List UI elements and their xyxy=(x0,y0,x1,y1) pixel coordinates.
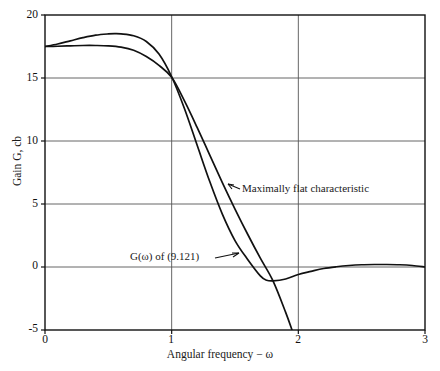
y-axis-title: Gain G, cb xyxy=(11,111,23,211)
x-axis-title: Angular frequency − ω xyxy=(0,348,440,360)
ytick-label-minus-5: -5 xyxy=(2,323,38,335)
xtick-label-3: 3 xyxy=(414,334,436,346)
plot-frame xyxy=(45,15,425,330)
axis-frame xyxy=(45,15,425,330)
series-line-0 xyxy=(45,34,425,281)
figure-container: 20 15 10 5 0 -5 0 1 2 3 Angular frequenc… xyxy=(0,0,440,371)
annotation-maximally-flat: Maximally flat characteristic xyxy=(242,183,369,194)
chart-plot-area xyxy=(0,0,440,371)
xtick-label-1: 1 xyxy=(160,334,182,346)
ytick-label-0: 0 xyxy=(6,260,38,272)
gridlines xyxy=(45,15,425,330)
xtick-label-0: 0 xyxy=(34,334,56,346)
ytick-label-20: 20 xyxy=(6,9,38,21)
annotation-g-omega: G(ω) of (9.121) xyxy=(130,251,199,262)
xtick-label-2: 2 xyxy=(287,334,309,346)
axis-tick-marks xyxy=(41,15,425,334)
ytick-label-15: 15 xyxy=(6,72,38,84)
